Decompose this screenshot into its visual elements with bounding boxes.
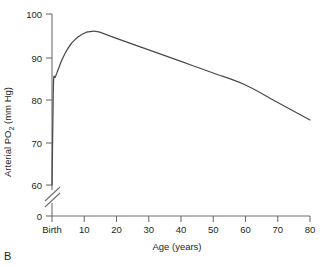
x-tick-label-20: 20: [111, 224, 122, 235]
chart-svg: Arterial PO2 (mm Hg) 100 90 80: [0, 0, 323, 267]
y-tick-label-90: 90: [31, 53, 42, 64]
x-tick-label-70: 70: [272, 224, 283, 235]
y-tick-label-100: 100: [26, 9, 42, 20]
x-axis-ticks: [52, 216, 310, 222]
y-axis-ticks: [46, 14, 52, 216]
y-axis-title: Arterial PO2 (mm Hg): [2, 87, 15, 177]
y-tick-label-80: 80: [31, 95, 42, 106]
x-tick-label-50: 50: [208, 224, 219, 235]
x-axis-tick-labels: Birth 10 20 30 40 50 60 70 80: [42, 224, 315, 235]
x-tick-label-60: 60: [240, 224, 251, 235]
panel-label-b: B: [4, 250, 11, 262]
y-tick-label-60: 60: [31, 180, 42, 191]
x-tick-label-10: 10: [79, 224, 90, 235]
x-tick-label-birth: Birth: [42, 224, 62, 235]
x-tick-label-30: 30: [143, 224, 154, 235]
y-tick-label-70: 70: [31, 138, 42, 149]
y-axis-tick-labels: 100 90 80 70 60 0: [26, 9, 42, 222]
x-tick-label-40: 40: [176, 224, 187, 235]
y-axis-title-main: Arterial PO: [2, 131, 13, 177]
y-tick-label-0: 0: [37, 211, 42, 222]
y-axis-title-tail: (mm Hg): [2, 87, 13, 127]
x-axis-title: Age (years): [152, 241, 201, 252]
x-tick-label-80: 80: [305, 224, 316, 235]
svg-text:Arterial PO2 (mm Hg): Arterial PO2 (mm Hg): [2, 87, 15, 177]
data-series-line: [52, 31, 310, 185]
figure-panel-b: Arterial PO2 (mm Hg) 100 90 80: [0, 0, 323, 267]
